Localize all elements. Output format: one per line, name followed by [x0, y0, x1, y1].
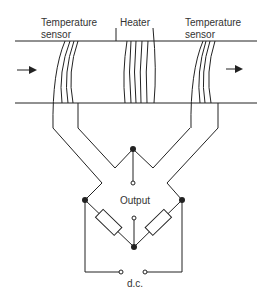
dc-terminal-left: [119, 270, 123, 274]
dc-supply-label: d.c.: [127, 278, 143, 289]
dc-terminal-right: [143, 270, 147, 274]
flow-arrow-out-icon: [226, 65, 243, 73]
heater-coil: [124, 41, 148, 103]
output-terminal-top: [131, 181, 135, 185]
junction-right: [179, 197, 185, 203]
bridge-resistor-left: [95, 209, 121, 235]
upstream-sensor-coil: [53, 41, 78, 128]
heater-leader-right: [153, 28, 155, 103]
junction-top: [130, 146, 136, 152]
output-terminal-bottom: [132, 216, 136, 220]
flow-arrow-in-icon: [17, 66, 37, 74]
right-sensor-label-line1: Temperature: [185, 17, 242, 28]
downstream-sensor-coil: [191, 41, 218, 128]
pipe: [15, 41, 257, 103]
junction-left: [82, 197, 88, 203]
heater-label: Heater: [120, 17, 151, 28]
bridge-resistor-right: [145, 209, 171, 235]
flow-meter-diagram: Temperature sensor Heater Temperature se…: [0, 0, 268, 299]
junction-bottom: [131, 244, 137, 250]
right-sensor-label-line2: sensor: [185, 29, 216, 40]
output-label: Output: [120, 195, 150, 206]
left-sensor-label-line2: sensor: [41, 29, 72, 40]
left-sensor-label-line1: Temperature: [41, 17, 98, 28]
